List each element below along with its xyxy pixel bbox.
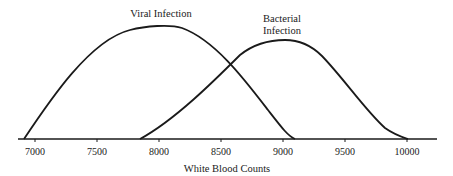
tick-label-9500: 9500 <box>335 146 355 157</box>
tick-label-9000: 9000 <box>273 146 293 157</box>
viral-infection-label: Viral Infection <box>130 8 192 19</box>
bacterial-infection-label-line2: Infection <box>263 25 302 36</box>
tick-label-10000: 10000 <box>395 146 420 157</box>
tick-label-7000: 7000 <box>25 146 45 157</box>
tick-label-8500: 8500 <box>211 146 231 157</box>
bacterial-infection-label-line1: Bacterial <box>263 13 301 24</box>
tick-label-7500: 7500 <box>87 146 107 157</box>
bacterial-infection-curve <box>140 40 408 139</box>
bell-curve-chart: 7000 7500 8000 8500 9000 9500 10000 Whit… <box>0 0 453 176</box>
tick-label-8000: 8000 <box>149 146 169 157</box>
x-axis-tick-labels: 7000 7500 8000 8500 9000 9500 10000 <box>25 146 420 157</box>
viral-infection-curve <box>24 26 295 139</box>
x-axis-title: White Blood Counts <box>184 163 270 174</box>
